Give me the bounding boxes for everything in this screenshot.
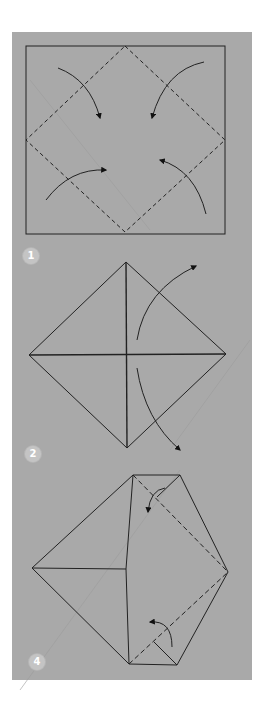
arrow-bottom-right <box>160 160 206 214</box>
guide-lines <box>20 80 250 690</box>
step-2-figure <box>29 262 226 450</box>
step-badge-4: 4 <box>29 654 45 670</box>
origami-diagram <box>0 0 265 703</box>
bottom-edge <box>129 664 177 665</box>
arrow-top-right <box>152 62 204 118</box>
step-1-figure <box>26 46 225 234</box>
arrow-up-right <box>137 266 196 340</box>
upper-dashed-fold <box>133 475 228 572</box>
arrow-top-left <box>58 68 100 118</box>
arrow-bottom-left <box>46 170 106 200</box>
arrow-down-right <box>137 368 180 450</box>
right-lower-edge <box>177 572 228 665</box>
horizontal-crease <box>29 354 226 355</box>
lower-flap-edge <box>154 642 177 665</box>
center-vertical <box>126 569 129 664</box>
left-outline <box>32 475 133 664</box>
square-outline <box>26 46 225 234</box>
step-badge-1: 1 <box>23 248 39 264</box>
right-upper-edge <box>180 475 228 572</box>
step-badge-2: 2 <box>25 446 41 462</box>
lower-dashed-fold <box>129 572 228 664</box>
step-4-figure <box>32 475 228 665</box>
dashed-diamond <box>26 46 225 232</box>
upper-flap-edge <box>157 475 180 497</box>
